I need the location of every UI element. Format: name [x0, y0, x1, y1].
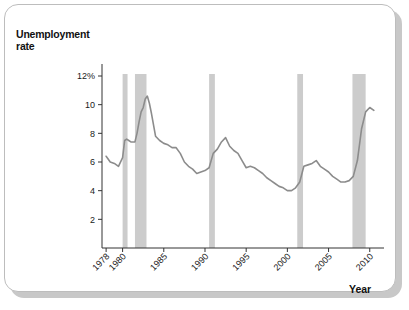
y-tick-label-12: 12% — [77, 71, 95, 81]
recession-bands — [123, 74, 366, 248]
x-tick-label-2000: 2000 — [272, 251, 293, 272]
x-tick-label-2010: 2010 — [354, 251, 375, 272]
recession-band-1 — [123, 74, 128, 248]
recession-band-5 — [352, 74, 365, 248]
x-tick-label-1995: 1995 — [230, 251, 251, 272]
y-tick-group: 24681012% — [77, 71, 102, 224]
y-tick-label-6: 6 — [90, 157, 95, 167]
y-tick-label-10: 10 — [85, 100, 95, 110]
x-tick-label-1980: 1980 — [107, 251, 128, 272]
x-tick-label-1985: 1985 — [148, 251, 169, 272]
recession-band-3 — [209, 74, 215, 248]
x-tick-label-1990: 1990 — [189, 251, 210, 272]
y-tick-label-2: 2 — [90, 215, 95, 225]
recession-band-4 — [297, 74, 303, 248]
chart-svg: 24681012% 197819801985199019952000200520… — [0, 0, 409, 310]
x-tick-label-2005: 2005 — [313, 251, 334, 272]
plot-area: Unemployment rate Year 24681012% 1978198… — [0, 0, 409, 310]
x-tick-label-1978: 1978 — [90, 251, 111, 272]
y-tick-label-8: 8 — [90, 129, 95, 139]
y-tick-label-4: 4 — [90, 186, 95, 196]
chart-screenshot: Unemployment rate Year 24681012% 1978198… — [0, 0, 409, 310]
x-tick-group: 19781980198519901995200020052010 — [90, 248, 375, 273]
